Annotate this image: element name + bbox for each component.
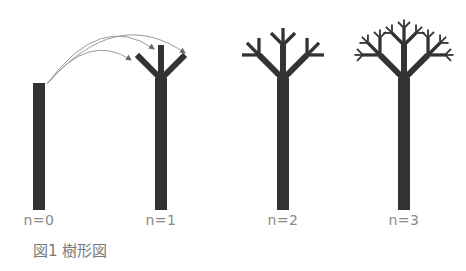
tree-n1: [137, 45, 185, 210]
label-n1: n=1: [145, 212, 176, 228]
branch: [307, 43, 319, 55]
label-n2: n=2: [267, 212, 298, 228]
branch: [368, 43, 380, 55]
branch: [247, 43, 259, 55]
figure-caption: 図1 樹形図: [33, 239, 107, 260]
branch: [271, 33, 283, 45]
mapping-arrow: [47, 50, 131, 84]
branch: [137, 55, 161, 79]
branch: [392, 33, 404, 45]
trees-group: [39, 20, 454, 211]
tree-diagram: [0, 0, 466, 271]
tree-n3: [354, 20, 453, 211]
tree-n2: [242, 28, 324, 210]
branch: [428, 43, 440, 55]
branch: [380, 55, 404, 79]
branch: [404, 33, 416, 45]
branch: [283, 55, 307, 79]
label-n0: n=0: [23, 212, 54, 228]
branch: [161, 55, 185, 79]
branch: [283, 33, 295, 45]
label-n3: n=3: [388, 212, 419, 228]
branch: [404, 55, 428, 79]
branch: [259, 55, 283, 79]
